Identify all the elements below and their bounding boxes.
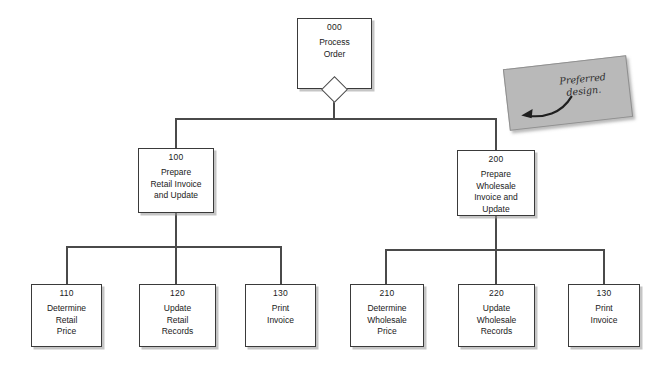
node-title: Update Retail Records <box>159 299 197 338</box>
node-110-determine-retail-price[interactable]: 110 Determine Retail Price <box>31 284 102 347</box>
node-id: 110 <box>59 285 73 299</box>
connector-to-130 <box>280 246 282 284</box>
connector-to-110 <box>66 246 68 284</box>
node-id: 000 <box>327 19 342 33</box>
node-title: Prepare Retail Invoice and Update <box>147 163 204 202</box>
curved-arrow-left-icon <box>515 92 578 125</box>
node-id: 130 <box>273 285 288 299</box>
node-title: Determine Retail Price <box>44 299 89 338</box>
structure-chart-canvas: 000 Process Order 100 Prepare Retail Inv… <box>0 0 671 373</box>
node-title: Prepare Wholesale Invoice and Update <box>471 165 520 215</box>
node-id: 130 <box>597 285 612 299</box>
node-id: 210 <box>380 285 395 299</box>
connector-200-stem <box>495 215 497 250</box>
node-title: Process Order <box>316 33 353 60</box>
node-200-prepare-wholesale-invoice[interactable]: 200 Prepare Wholesale Invoice and Update <box>457 150 535 216</box>
node-130-print-invoice-right[interactable]: 130 Print Invoice <box>568 284 640 347</box>
node-title: Print Invoice <box>264 299 297 326</box>
sticky-note-preferred-design[interactable]: Preferred design. <box>503 55 633 131</box>
node-id: 100 <box>169 149 184 163</box>
node-120-update-retail-records[interactable]: 120 Update Retail Records <box>139 284 216 347</box>
connector-bus-left-group <box>66 246 281 248</box>
connector-to-200 <box>495 118 497 150</box>
connector-bus-level1 <box>175 118 497 120</box>
node-title: Update Wholesale Records <box>474 299 520 338</box>
connector-to-130-right <box>603 249 605 284</box>
node-title: Determine Wholesale Price <box>364 299 410 338</box>
node-210-determine-wholesale-price[interactable]: 210 Determine Wholesale Price <box>350 284 424 347</box>
node-id: 120 <box>170 285 185 299</box>
connector-to-210 <box>385 249 387 284</box>
node-100-prepare-retail-invoice[interactable]: 100 Prepare Retail Invoice and Update <box>138 148 214 213</box>
node-130-print-invoice[interactable]: 130 Print Invoice <box>245 284 316 347</box>
node-id: 220 <box>489 285 504 299</box>
connector-to-100 <box>175 118 177 148</box>
connector-to-220 <box>495 249 497 284</box>
connector-to-120 <box>175 246 177 284</box>
node-title: Print Invoice <box>588 299 621 326</box>
node-220-update-wholesale-records[interactable]: 220 Update Wholesale Records <box>458 284 535 347</box>
node-id: 200 <box>489 151 504 165</box>
connector-100-stem <box>175 212 177 247</box>
